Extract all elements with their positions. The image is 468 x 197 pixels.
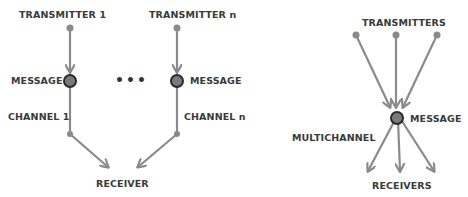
message-node-n: [171, 75, 183, 87]
communication-diagram: [0, 0, 468, 197]
channel-n-arrow: [138, 134, 177, 167]
receiver-arrow-2: [398, 120, 400, 171]
label-transmitter-n: TRANSMITTER n: [149, 9, 236, 20]
label-receiver: RECEIVER: [96, 178, 149, 189]
left-transmitter-n-line: [174, 25, 181, 73]
channel-1-arrow: [70, 134, 108, 167]
label-channel-1: CHANNEL 1: [8, 111, 70, 122]
left-transmitter-1-line: [67, 25, 74, 73]
label-channel-n: CHANNEL n: [184, 111, 246, 122]
label-receivers: RECEIVERS: [372, 180, 432, 191]
multichannel-message-node: [391, 112, 403, 124]
receiver-arrow-3: [400, 118, 434, 171]
label-message-1: MESSAGE: [11, 75, 63, 86]
message-node-1: [64, 75, 76, 87]
transmitter-arrow-1: [356, 35, 390, 107]
label-multichannel: MULTICHANNEL: [292, 132, 376, 143]
transmitter-arrow-3: [403, 35, 437, 107]
label-message-n: MESSAGE: [190, 75, 242, 86]
label-transmitters: TRANSMITTERS: [362, 17, 446, 28]
label-transmitter-1: TRANSMITTER 1: [19, 9, 106, 20]
receiver-arrow-1: [368, 118, 396, 171]
label-multichannel-message: MESSAGE: [410, 113, 462, 124]
ellipsis-icon: •••: [115, 72, 148, 88]
